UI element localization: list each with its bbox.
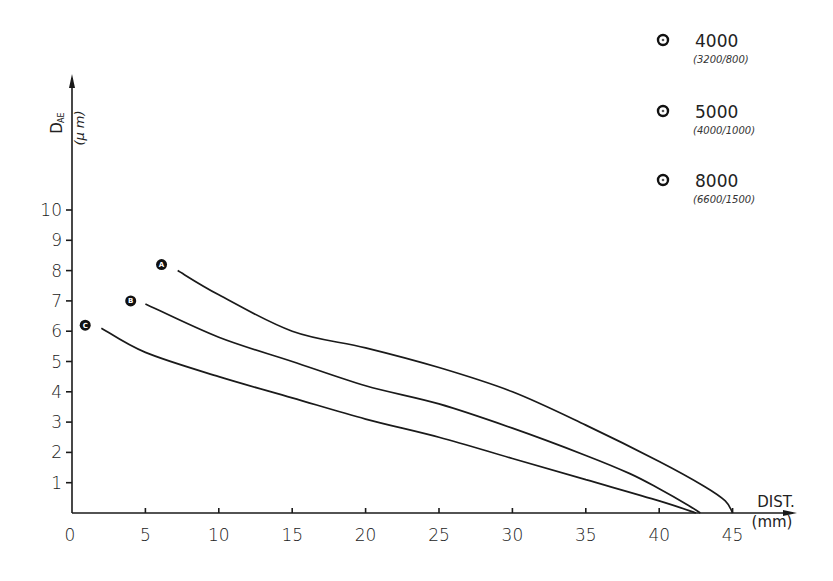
x-axis-unit: (mm) (752, 513, 793, 531)
y-tick-label: 7 (51, 291, 62, 311)
legend-sublabel: (6600/1500) (693, 194, 755, 205)
y-tick-label: 10 (40, 200, 62, 220)
x-tick-label: 35 (575, 525, 597, 545)
x-tick-label: 45 (722, 525, 744, 545)
y-axis-unit: (μ m) (72, 110, 87, 145)
y-tick-label: 1 (51, 473, 62, 493)
axis-titles: DAE(μ m)DIST.(mm) (48, 110, 795, 531)
legend: 4000(3200/800)5000(4000/1000)8000(6600/1… (658, 31, 755, 205)
y-tick-label: 9 (51, 230, 62, 250)
legend-label: 4000 (695, 31, 738, 51)
legend-label: 5000 (695, 102, 738, 122)
curve-markers: ABC (80, 259, 167, 331)
y-tick-label: 3 (51, 412, 62, 432)
curve-marker-label: B (128, 297, 133, 305)
y-axis-title: DAE (48, 112, 66, 133)
curve-marker-label: A (159, 261, 165, 269)
x-axis-title: DIST. (757, 493, 795, 511)
svg-text:AE: AE (57, 112, 66, 123)
curve-b (145, 304, 700, 513)
y-axis-arrow-icon (69, 74, 75, 88)
x-tick-label: 25 (428, 525, 450, 545)
legend-sublabel: (3200/800) (693, 54, 749, 65)
y-tick-label: 6 (51, 321, 62, 341)
svg-text:(μ m): (μ m) (72, 110, 87, 145)
x-tick-label: 40 (648, 525, 670, 545)
x-tick-label: 0 (65, 525, 76, 545)
y-tick-label: 4 (51, 382, 62, 402)
curves (101, 271, 732, 513)
legend-label: 8000 (695, 171, 738, 191)
y-tick-label: 2 (51, 442, 62, 462)
curve-marker-label: C (83, 322, 88, 330)
y-tick-label: 8 (51, 261, 62, 281)
legend-marker-dot (662, 179, 665, 182)
legend-marker-dot (662, 110, 665, 113)
x-tick-label: 10 (208, 525, 230, 545)
y-tick-label: 5 (51, 352, 62, 372)
legend-marker-dot (662, 39, 665, 42)
chart-canvas: 12345678910051015202530354045 ABC 4000(3… (0, 0, 833, 581)
x-tick-label: 15 (281, 525, 303, 545)
legend-sublabel: (4000/1000) (693, 125, 755, 136)
x-tick-label: 20 (355, 525, 377, 545)
x-tick-label: 5 (140, 525, 151, 545)
x-tick-label: 30 (502, 525, 524, 545)
curve-a (178, 271, 733, 513)
